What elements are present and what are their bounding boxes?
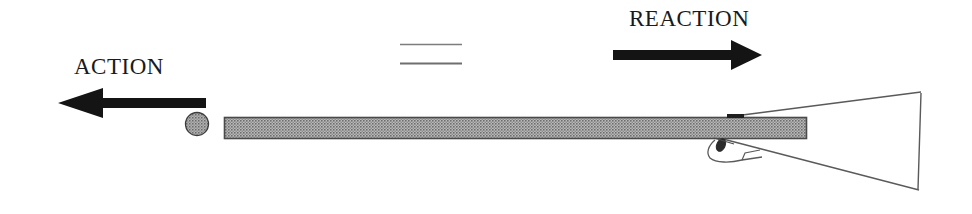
exhaust-cone [723, 92, 921, 190]
nozzle-port-group [708, 137, 762, 162]
reaction-arrow-head [731, 40, 762, 70]
projectile-ball [186, 113, 209, 136]
exhaust-cone-upper-edge [727, 92, 921, 117]
diagram-canvas [0, 0, 972, 214]
reaction-arrow [613, 40, 762, 70]
exhaust-cone-lower-edge [723, 139, 919, 190]
exhaust-cone-mouth-edge [918, 93, 921, 189]
reaction-arrow-shaft [613, 50, 737, 60]
divider-lines [400, 45, 462, 64]
reaction-label: REACTION [629, 6, 749, 32]
action-label: ACTION [74, 54, 164, 80]
action-arrow-shaft [100, 98, 206, 108]
barrel-bar [225, 118, 807, 139]
barrel-top-mark [727, 114, 744, 118]
action-reaction-diagram: ACTION REACTION [0, 0, 972, 214]
action-arrow-head [58, 88, 103, 118]
action-arrow [58, 88, 206, 118]
